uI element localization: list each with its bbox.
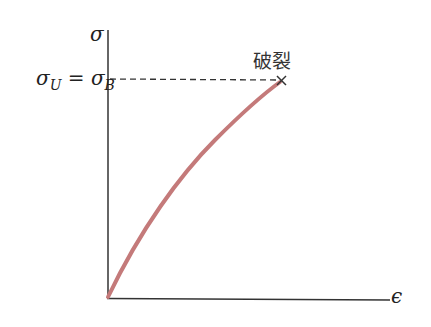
y-axis-label: σ (90, 22, 104, 46)
x-axis-label: ϵ (391, 284, 402, 308)
ultimate-stress-label: σU = σB (36, 66, 115, 93)
stress-strain-diagram: σ σU = σB ϵ 破裂 (0, 0, 431, 327)
ultimate-stress-dashed-line (110, 79, 278, 80)
sigma-b-symbol: σ (91, 66, 105, 90)
stress-strain-curve (108, 82, 280, 297)
equals-sign: = (61, 66, 90, 90)
diagram-canvas (0, 0, 431, 327)
fracture-label: 破裂 (253, 46, 291, 73)
x-axis (107, 299, 390, 301)
sigma-u-symbol: σ (36, 66, 50, 90)
fracture-x-marker-icon (277, 76, 286, 85)
sigma-b-subscript: B (105, 77, 115, 93)
sigma-u-subscript: U (50, 77, 62, 93)
